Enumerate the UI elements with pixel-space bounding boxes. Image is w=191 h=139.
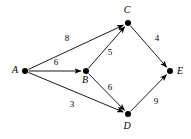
graph-edge-d-e — [131, 75, 167, 112]
graph-node-label-d: D — [122, 120, 131, 131]
edge-weight-b-c: 5 — [108, 47, 113, 57]
graph-edge-c-e — [130, 26, 166, 67]
graph-node-label-e: E — [176, 65, 183, 76]
graph-canvas: 8635649 ABCDE — [0, 0, 191, 139]
graph-edges — [28, 25, 166, 112]
graph-node-a — [22, 68, 28, 74]
directed-graph-figure: 8635649 ABCDE — [0, 0, 191, 139]
graph-nodes: ABCDE — [11, 4, 183, 131]
graph-node-label-a: A — [11, 64, 19, 75]
graph-node-label-b: B — [82, 74, 88, 85]
edge-weight-b-d: 6 — [108, 82, 113, 92]
graph-node-label-c: C — [124, 4, 131, 15]
graph-node-c — [125, 20, 131, 26]
graph-edge-a-d — [28, 72, 123, 112]
edge-weight-a-b: 6 — [54, 57, 59, 67]
edge-weight-a-d: 3 — [70, 99, 75, 109]
edge-weight-d-e: 9 — [154, 96, 159, 106]
graph-node-b — [83, 68, 89, 74]
edge-weight-a-c: 8 — [65, 33, 70, 43]
edge-weight-c-e: 4 — [155, 33, 160, 43]
graph-node-d — [125, 111, 131, 117]
graph-node-e — [167, 68, 173, 74]
